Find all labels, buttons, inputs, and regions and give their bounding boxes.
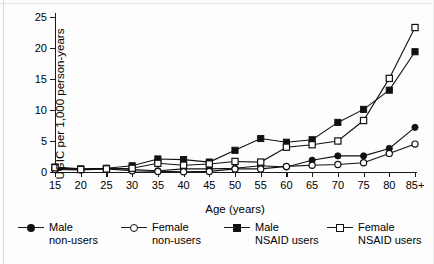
legend: Male non-usersFemale non-usersMale NSAID…	[18, 221, 430, 261]
data-point	[412, 49, 418, 55]
data-point	[232, 166, 238, 172]
legend-item-label: Male NSAID users	[255, 221, 319, 247]
data-point	[309, 142, 315, 148]
y-tick-label: 5	[41, 136, 47, 147]
x-axis-title: Age (years)	[55, 203, 415, 215]
page-edge-left	[3, 0, 4, 264]
x-tick-label: 30	[126, 180, 138, 191]
data-point	[258, 135, 264, 141]
legend-filled-square-icon	[224, 221, 250, 234]
data-point	[335, 153, 341, 159]
data-point	[155, 168, 161, 174]
x-tick-label: 75	[357, 180, 369, 191]
data-point	[78, 166, 84, 172]
y-tick-label: 25	[35, 12, 47, 23]
data-point	[129, 165, 135, 171]
y-axis-title: UGIC per 1,000 person-years	[54, 24, 66, 184]
data-point	[206, 168, 212, 174]
data-point	[335, 138, 341, 144]
data-point	[360, 160, 366, 166]
data-point	[103, 166, 109, 172]
plot-area: 0510152025 15202530354045505560657075808…	[55, 17, 415, 172]
x-tick-label: 40	[177, 180, 189, 191]
data-point	[258, 159, 264, 165]
data-point	[360, 153, 366, 159]
data-point	[155, 160, 161, 166]
data-point	[180, 162, 186, 168]
x-tick-label: 55	[255, 180, 267, 191]
x-tick-label: 45	[203, 180, 215, 191]
data-point	[283, 163, 289, 169]
data-point	[412, 124, 418, 130]
legend-open-square-icon	[327, 221, 353, 234]
x-tick-label: 35	[152, 180, 164, 191]
data-point	[360, 117, 366, 123]
x-tick-label: 80	[383, 180, 395, 191]
x-tick-label: 70	[332, 180, 344, 191]
data-point	[412, 141, 418, 147]
legend-item-male-non-users: Male non-users	[18, 221, 121, 261]
data-point	[309, 162, 315, 168]
legend-item-label: Male non-users	[49, 221, 98, 247]
data-point	[335, 119, 341, 125]
legend-item-female-non-users: Female non-users	[121, 221, 224, 261]
series-layer	[55, 17, 417, 175]
data-point	[360, 106, 366, 112]
y-tick-label: 20	[35, 43, 47, 54]
legend-open-circle-icon	[121, 221, 147, 234]
figure-panel: 0510152025 15202530354045505560657075808…	[0, 0, 434, 264]
legend-filled-circle-icon	[18, 221, 44, 234]
y-tick-label: 10	[35, 105, 47, 116]
data-point	[386, 87, 392, 93]
data-point	[412, 24, 418, 30]
data-point	[283, 144, 289, 150]
x-tick-label: 85+	[406, 180, 425, 191]
page-edge-top	[0, 3, 434, 4]
y-tick-label: 15	[35, 74, 47, 85]
x-tick-label: 50	[229, 180, 241, 191]
x-tick-label: 60	[280, 180, 292, 191]
legend-item-label: Female NSAID users	[358, 221, 422, 247]
data-point	[180, 169, 186, 175]
legend-item-male-nsaid-users: Male NSAID users	[224, 221, 327, 261]
y-tick-label: 0	[41, 167, 47, 178]
data-point	[206, 161, 212, 167]
data-point	[232, 147, 238, 153]
data-point	[258, 166, 264, 172]
x-tick-label: 65	[306, 180, 318, 191]
x-tick-label: 20	[75, 180, 87, 191]
data-point	[386, 150, 392, 156]
legend-item-female-nsaid-users: Female NSAID users	[327, 221, 430, 261]
legend-item-label: Female non-users	[152, 221, 201, 247]
data-point	[386, 75, 392, 81]
x-tick-label: 25	[100, 180, 112, 191]
data-point	[232, 158, 238, 164]
data-point	[335, 161, 341, 167]
